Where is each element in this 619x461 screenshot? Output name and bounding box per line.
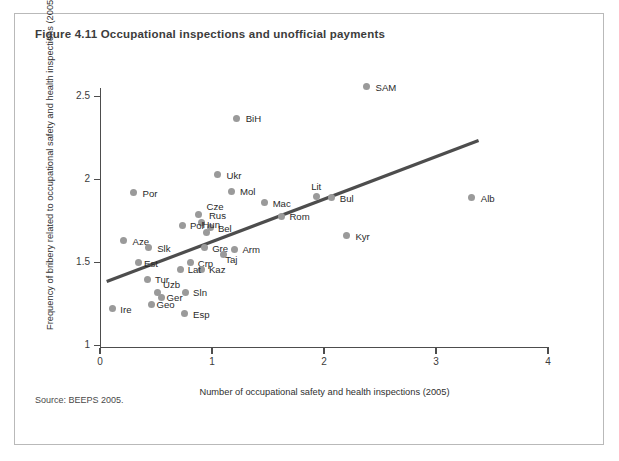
data-point-label: BiH	[246, 113, 261, 124]
data-point-label: Est	[144, 258, 158, 269]
data-point[interactable]	[278, 213, 285, 220]
data-point-label: Kyr	[355, 231, 369, 242]
x-tick-label: 3	[421, 356, 451, 367]
y-axis-title: Frequency of bribery related to occupati…	[44, 60, 56, 330]
data-point-label: Mac	[273, 198, 291, 209]
x-tick-label: 0	[85, 356, 115, 367]
data-point[interactable]	[313, 193, 320, 200]
data-point[interactable]	[177, 266, 184, 273]
x-tick	[323, 348, 324, 354]
x-axis-title: Number of occupational safety and health…	[100, 387, 549, 397]
x-tick-label: 1	[197, 356, 227, 367]
data-point[interactable]	[148, 301, 155, 308]
data-point-label: Bul	[340, 193, 354, 204]
data-point[interactable]	[343, 232, 350, 239]
data-point[interactable]	[231, 246, 238, 253]
scatter-plot: 11.522.501234 SAMBiHUkrPorMolAlbLitBulMa…	[0, 0, 619, 461]
data-point[interactable]	[328, 194, 335, 201]
y-tick	[94, 179, 100, 180]
x-tick	[435, 348, 436, 354]
x-tick-label: 4	[533, 356, 563, 367]
data-point-label: Lit	[311, 181, 321, 192]
data-point-label: Kaz	[209, 264, 226, 275]
data-point[interactable]	[233, 115, 240, 122]
data-point[interactable]	[261, 199, 268, 206]
x-tick	[99, 348, 100, 354]
y-tick-label: 1.5	[60, 256, 90, 267]
data-point[interactable]	[145, 244, 152, 251]
y-tick	[94, 96, 100, 97]
data-point[interactable]	[195, 211, 202, 218]
data-point-label: Sln	[193, 287, 207, 298]
y-axis-line	[100, 88, 101, 348]
data-point[interactable]	[182, 289, 189, 296]
data-point-label: Alb	[481, 193, 495, 204]
data-point-label: Arm	[242, 244, 260, 255]
data-point-label: Geo	[157, 299, 175, 310]
y-tick-label: 2.5	[60, 90, 90, 101]
data-point-label: Taj	[225, 254, 237, 265]
x-tick	[211, 348, 212, 354]
data-point-label: Por	[143, 188, 158, 199]
x-tick-label: 2	[309, 356, 339, 367]
data-point[interactable]	[201, 244, 208, 251]
y-tick	[94, 345, 100, 346]
data-point-label: Lat	[188, 264, 201, 275]
data-point-label: Rom	[289, 211, 309, 222]
data-point-label: Slk	[157, 243, 170, 254]
data-point-label: Uzb	[163, 279, 180, 290]
x-tick	[547, 348, 548, 354]
data-point[interactable]	[228, 188, 235, 195]
y-tick-label: 2	[60, 173, 90, 184]
data-point[interactable]	[214, 171, 221, 178]
data-point-label: SAM	[376, 82, 397, 93]
data-point[interactable]	[144, 276, 151, 283]
data-point[interactable]	[179, 222, 186, 229]
data-point[interactable]	[130, 189, 137, 196]
data-point[interactable]	[120, 237, 127, 244]
data-point-label: Ire	[120, 304, 131, 315]
data-point[interactable]	[181, 310, 188, 317]
data-point[interactable]	[203, 229, 210, 236]
data-point-label: Hun	[202, 219, 220, 230]
data-point[interactable]	[468, 194, 475, 201]
y-tick-label: 1	[60, 339, 90, 350]
y-axis-title-text: Frequency of bribery related to occupati…	[44, 60, 56, 330]
data-point[interactable]	[363, 83, 370, 90]
y-tick	[94, 262, 100, 263]
data-point-label: Esp	[193, 309, 210, 320]
data-point[interactable]	[109, 305, 116, 312]
data-point-label: Ukr	[227, 170, 242, 181]
data-point-label: Mol	[240, 186, 255, 197]
data-point[interactable]	[135, 259, 142, 266]
